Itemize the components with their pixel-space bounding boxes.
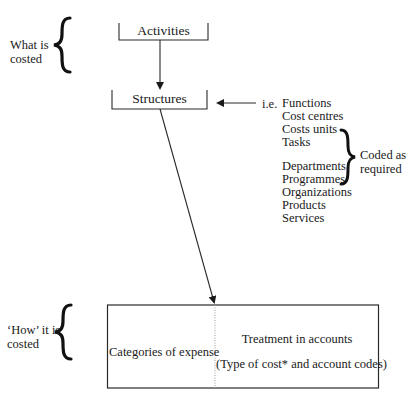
how-costed-line2: costed [7,337,60,351]
treatment-subtitle-cell: (Type of cost* and account codes) [216,357,378,371]
arrow-structures-to-treatment [160,109,214,302]
categories-of-expense-label: Categories of expense [109,345,219,359]
coded-as-required-note: Coded as required [360,148,406,176]
coded-note-line1: Coded as [360,148,406,162]
structure-examples-list: Functions Cost centres Costs units Tasks… [282,97,382,277]
activities-node: Activities [119,24,208,38]
treatment-subtitle: (Type of cost* and account codes) [216,357,378,371]
what-is-costed-line1: What is [10,38,49,52]
structures-node: Structures [112,92,207,106]
list-item: Services [282,212,324,225]
structures-label: Structures [132,91,187,106]
coded-brace-icon [339,128,357,186]
activities-label: Activities [137,23,190,38]
what-is-costed-brace-icon [50,16,74,74]
treatment-in-accounts-cell: Treatment in accounts [216,332,378,346]
coded-note-line2: required [360,162,406,176]
ie-prefix: i.e. [262,97,277,111]
treatment-title: Treatment in accounts [216,332,378,346]
what-is-costed-line2: costed [10,52,49,66]
what-is-costed-label: What is costed [10,38,49,66]
how-it-is-costed-label: ‘How’ it is costed [7,323,60,351]
list-item: Tasks [282,136,310,149]
how-costed-line1: ‘How’ it is [7,323,60,337]
categories-of-expense-cell: Categories of expense [109,345,219,359]
